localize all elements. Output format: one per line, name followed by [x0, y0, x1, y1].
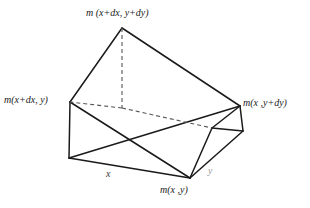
vertex-label-right: m(x ,y+dy) [243, 98, 287, 108]
axis-label-x: x [106, 169, 110, 179]
vertex-label-bottom: m(x ,y) [160, 185, 188, 195]
edge-left-vertical [69, 102, 70, 158]
vertex-label-left: m(x+dx, y) [4, 95, 48, 105]
figure-container: m (x+dx, y+dy) m(x+dx, y) m(x ,y+dy) m(x… [0, 0, 310, 208]
edge-backlower-to-rightlower [212, 128, 243, 131]
edge-bottom-left-front [69, 158, 190, 178]
edge-bottom-front-right [190, 131, 243, 178]
hidden-edge-group [70, 28, 212, 128]
vertex-label-top: m (x+dx, y+dy) [86, 8, 149, 18]
edge-apex-to-left [70, 28, 122, 102]
edge-bottomleft-to-right [69, 106, 240, 158]
edge-right-to-backlower [212, 106, 240, 128]
solid-edge-group [69, 28, 243, 178]
edge-apex-to-right [122, 28, 240, 106]
edge-right-vertical [240, 106, 243, 131]
axis-label-y: y [208, 166, 212, 176]
